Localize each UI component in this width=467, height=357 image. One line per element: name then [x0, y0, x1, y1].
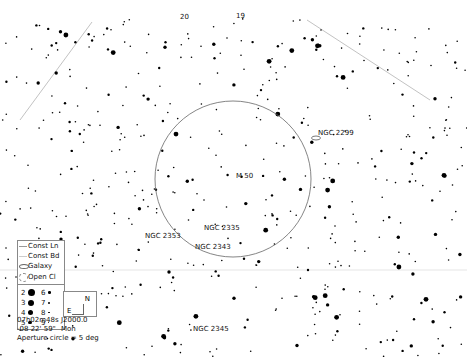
label-ngc2345[interactable]: NGC 2345 — [193, 325, 229, 333]
legend-const-boundary: Const Bd — [18, 251, 64, 261]
star-magnitude-icon — [48, 302, 50, 304]
north-label: N — [85, 295, 90, 303]
label-ngc2299[interactable]: NGC 2299 — [318, 129, 354, 137]
label-star-19: 19 — [236, 12, 245, 20]
legend-const-line: Const Ln — [18, 241, 64, 251]
magnitude-2: 2 — [21, 288, 41, 297]
star-magnitude-icon — [28, 289, 35, 296]
label-ngc2353[interactable]: NGC 2353 — [145, 232, 181, 240]
legend-galaxy-label: Galaxy — [28, 262, 52, 270]
label-m50[interactable]: M 50 — [236, 172, 253, 180]
magnitude-6: 6 — [41, 288, 61, 297]
orientation-indicator: N E — [63, 291, 97, 317]
east-label: E — [67, 307, 71, 315]
chart-info: 07h02m48s J2000.0 -08 22' 59" Mon Apertu… — [17, 316, 99, 343]
ra-value: 07h02m48s — [17, 316, 61, 325]
epoch-value: J2000.0 — [61, 316, 88, 325]
star-magnitude-icon — [28, 300, 34, 306]
magnitude-3: 3 — [21, 298, 41, 307]
orientation-arrows-icon — [72, 304, 84, 315]
const-boundary-icon — [19, 256, 27, 257]
star-magnitude-icon — [28, 310, 33, 315]
star-magnitude-icon — [48, 312, 50, 314]
label-ngc2335[interactable]: NGC 2335 — [204, 224, 240, 232]
legend-const-line-label: Const Ln — [28, 242, 59, 250]
dec-value: -08 22' 59" — [17, 325, 61, 334]
legend-open-cluster: Open Cl — [18, 271, 64, 284]
legend-galaxy: Galaxy — [18, 261, 64, 271]
const-line-icon — [19, 246, 27, 247]
constellation-lines — [0, 20, 467, 270]
magnitude-7: 7 — [41, 298, 61, 307]
star-chart[interactable]: 20 19 M 50 NGC 2299 NGC 2335 NGC 2353 NG… — [0, 0, 467, 357]
open-cluster-icon — [19, 273, 28, 282]
legend-open-cluster-label: Open Cl — [28, 273, 56, 281]
legend-const-boundary-label: Const Bd — [28, 252, 59, 260]
aperture-info: Aperture circle = 5 deg — [17, 334, 99, 343]
constellation-value: Mon — [61, 325, 76, 334]
star-magnitude-icon — [48, 291, 51, 294]
label-star-20: 20 — [180, 13, 189, 21]
galaxy-icon — [19, 264, 29, 269]
label-ngc2343[interactable]: NGC 2343 — [195, 243, 231, 251]
